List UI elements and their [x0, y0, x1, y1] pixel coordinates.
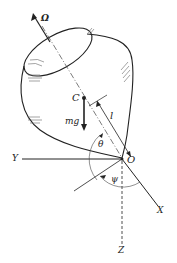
spinning-top-diagram: [0, 0, 177, 263]
y-axis-label: Y: [12, 154, 18, 163]
origin-label: O: [127, 155, 135, 165]
top-body: [17, 18, 133, 158]
center-of-mass-label: C: [72, 93, 80, 103]
top-left-outline: [21, 66, 122, 158]
origin-dot: [121, 158, 124, 161]
x-axis: [122, 159, 158, 206]
psi-label: ψ: [111, 175, 118, 184]
top-right-outline: [87, 34, 133, 158]
z-axis-label: Z: [118, 246, 124, 255]
gravity-label: mg: [65, 117, 79, 126]
gravity-arrowhead: [81, 124, 87, 131]
length-label: l: [110, 111, 113, 121]
theta-label: θ: [98, 140, 103, 149]
psi-arc: [100, 176, 140, 187]
omega-label: Ω: [41, 14, 49, 23]
x-axis-label: X: [157, 206, 163, 215]
